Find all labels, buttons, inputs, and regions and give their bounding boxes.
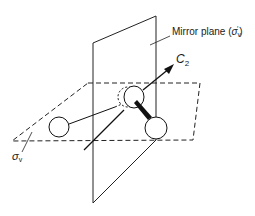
bond-left bbox=[69, 107, 115, 124]
c2-axis-label: C2 bbox=[176, 52, 190, 68]
sigma-v-leader bbox=[22, 132, 32, 152]
molecule-symmetry-diagram: Mirror plane (σv′) C2 σv bbox=[0, 0, 255, 216]
bond-left-hidden bbox=[115, 104, 122, 107]
left-atom bbox=[49, 117, 69, 137]
mirror-plane-leader bbox=[150, 36, 170, 45]
sigma-v-label: σv bbox=[12, 150, 23, 163]
mirror-plane-label: Mirror plane (σv′) bbox=[172, 25, 243, 38]
right-atom bbox=[145, 117, 167, 139]
horizontal-plane-sigma-v bbox=[12, 83, 200, 141]
wedge-bond-right bbox=[134, 100, 152, 120]
vertical-mirror-plane bbox=[93, 16, 156, 203]
